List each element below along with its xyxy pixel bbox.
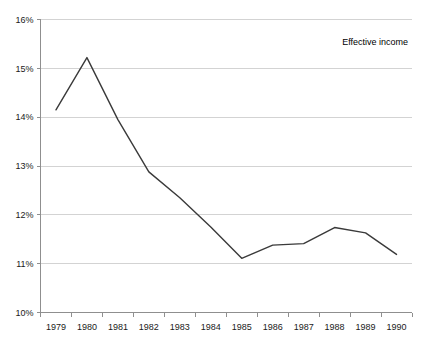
x-axis-tick-label-1982: 1982 <box>139 322 159 332</box>
x-tick-marks-group <box>41 313 413 317</box>
y-axis-tick-label-16%: 16% <box>15 15 33 25</box>
chart-container: 10%11%12%13%14%15%16% 197919801981198219… <box>0 0 424 348</box>
y-axis-tick-label-11%: 11% <box>16 259 33 269</box>
x-axis-tick-label-1987: 1987 <box>294 322 314 332</box>
y-axis-tick-label-10%: 10% <box>15 308 33 318</box>
x-axis-tick-label-1989: 1989 <box>356 322 376 332</box>
y-axis-tick-label-14%: 14% <box>15 112 33 122</box>
y-axis-tick-label-15%: 15% <box>15 64 33 74</box>
x-axis-tick-label-1983: 1983 <box>170 322 190 332</box>
x-axis-tick-label-1988: 1988 <box>325 322 345 332</box>
line-chart: 10%11%12%13%14%15%16% 197919801981198219… <box>0 0 424 348</box>
y-axis-tick-label-13%: 13% <box>15 161 33 171</box>
y-tick-marks-group <box>37 20 41 313</box>
x-axis-tick-label-1986: 1986 <box>263 322 283 332</box>
x-axis-tick-label-1984: 1984 <box>201 322 221 332</box>
x-axis-tick-label-1990: 1990 <box>387 322 407 332</box>
x-axis-tick-label-1980: 1980 <box>77 322 97 332</box>
x-axis-tick-label-1981: 1981 <box>108 322 128 332</box>
x-axis-tick-label-1979: 1979 <box>46 322 66 332</box>
y-axis-tick-label-12%: 12% <box>15 210 33 220</box>
series-group <box>56 58 397 259</box>
legend-label-effective-income: Effective income <box>342 37 408 47</box>
series-line-effective-income <box>56 58 397 259</box>
x-axis-labels-group: 1979198019811982198319841985198619871988… <box>46 322 407 332</box>
y-axis-labels-group: 10%11%12%13%14%15%16% <box>15 15 33 318</box>
gridlines-group <box>41 20 413 313</box>
x-axis-tick-label-1985: 1985 <box>232 322 252 332</box>
